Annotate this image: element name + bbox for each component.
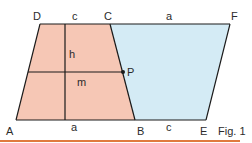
trapezoid-diagram: D C F A B E P c a a c h m Fig. 1 [0, 0, 252, 143]
point-P-marker [121, 70, 125, 74]
label-midline: m [77, 76, 86, 88]
label-D: D [33, 10, 41, 22]
label-P: P [127, 66, 134, 78]
label-F: F [231, 10, 238, 22]
label-segment-AB: a [71, 121, 78, 133]
label-B: B [137, 125, 144, 137]
bottom-rule [0, 140, 240, 142]
label-height: h [69, 48, 75, 60]
label-segment-CF: a [166, 10, 173, 22]
label-segment-BE: c [166, 121, 172, 133]
label-A: A [6, 125, 14, 137]
label-C: C [104, 10, 112, 22]
figure-caption: Fig. 1 [218, 125, 246, 137]
label-E: E [200, 125, 207, 137]
label-segment-DC: c [72, 10, 78, 22]
